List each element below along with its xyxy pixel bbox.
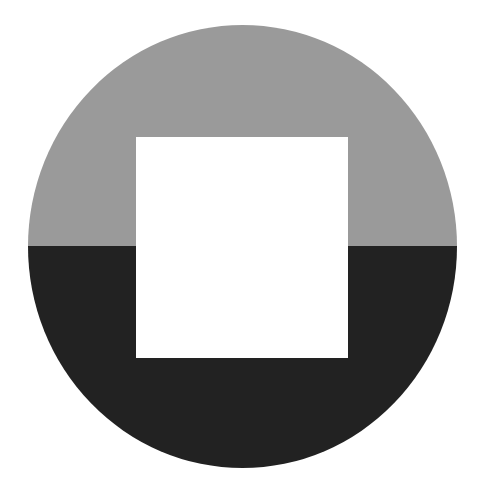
white-square — [136, 137, 348, 358]
circle-square-figure — [0, 0, 491, 492]
